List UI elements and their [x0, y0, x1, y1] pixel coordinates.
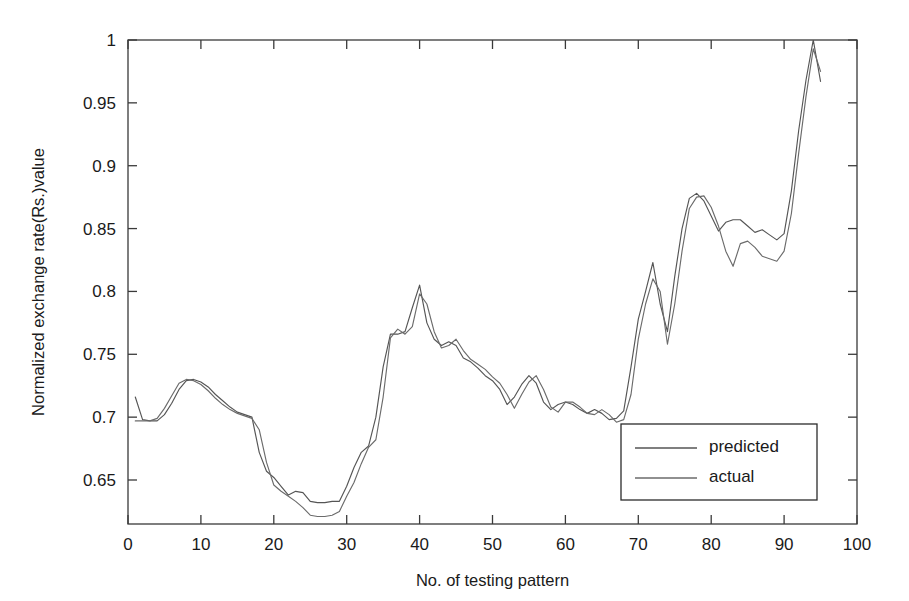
y-tick-label: 0.95: [83, 94, 116, 113]
y-tick-label: 0.85: [83, 220, 116, 239]
chart-figure: 0.650.70.750.80.850.90.95101020304050607…: [0, 0, 909, 601]
x-tick-label: 70: [629, 535, 648, 554]
x-axis-title: No. of testing pattern: [416, 571, 569, 589]
x-tick-label: 80: [702, 535, 721, 554]
y-tick-label: 0.7: [92, 408, 116, 427]
y-tick-label: 0.8: [92, 282, 116, 301]
y-tick-label: 0.65: [83, 471, 116, 490]
legend-box: [621, 424, 817, 500]
x-tick-label: 90: [775, 535, 794, 554]
x-tick-label: 20: [264, 535, 283, 554]
x-tick-label: 50: [483, 535, 502, 554]
y-tick-label: 0.75: [83, 345, 116, 364]
legend-label-predicted: predicted: [709, 437, 779, 456]
y-tick-label: 1: [107, 31, 116, 50]
x-tick-label: 30: [337, 535, 356, 554]
x-tick-label: 0: [123, 535, 132, 554]
line-chart-svg: 0.650.70.750.80.850.90.95101020304050607…: [0, 0, 909, 601]
y-tick-label: 0.9: [92, 157, 116, 176]
x-tick-label: 60: [556, 535, 575, 554]
x-tick-label: 100: [843, 535, 871, 554]
y-axis-title: Normalized exchange rate(Rs.)value: [29, 148, 47, 416]
x-tick-label: 10: [191, 535, 210, 554]
x-tick-label: 40: [410, 535, 429, 554]
legend-label-actual: actual: [709, 467, 754, 486]
